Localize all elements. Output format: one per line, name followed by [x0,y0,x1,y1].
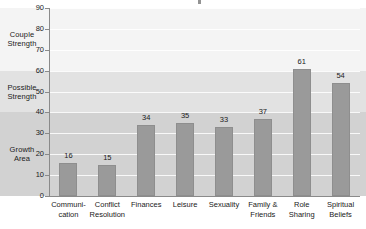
y-axis-tick-mark [45,50,49,51]
y-axis-tick-label: 30 [22,129,44,137]
category-label-line2: cation [46,210,90,220]
y-axis-tick-label: 60 [22,67,44,75]
gridline [49,133,360,134]
gridline [49,29,360,30]
y-axis-tick-label: 70 [22,46,44,54]
y-axis-tick-mark [45,92,49,93]
x-axis-category-label: RoleSharing [280,200,324,219]
bar-value-label: 34 [131,114,161,122]
bar [254,119,272,196]
y-axis-tick-label: 0 [22,192,44,200]
y-axis-tick-label: 20 [22,150,44,158]
gridline [49,50,360,51]
bar [332,83,350,196]
x-axis-category-label: Sexuality [202,200,246,210]
y-axis-tick-mark [45,71,49,72]
y-axis-tick-label: 90 [22,4,44,12]
bar [98,165,116,196]
bar-value-label: 54 [326,72,356,80]
bar [176,123,194,196]
category-label-line1: Leisure [163,200,207,210]
y-axis-tick-mark [45,154,49,155]
bar-value-label: 15 [92,154,122,162]
category-label-line1: Spiritual [319,200,363,210]
y-axis-tick-label: 10 [22,171,44,179]
bar [137,125,155,196]
y-axis-line [49,8,50,197]
bar-value-label: 33 [209,116,239,124]
cropped-title-remnant [198,0,201,4]
category-label-line1: Finances [124,200,168,210]
gridline [49,71,360,72]
y-axis-tick-label: 50 [22,88,44,96]
bar [59,163,77,196]
bar-chart: Couple Strength Possible Strength Growth… [0,0,366,229]
bar-value-label: 16 [53,152,83,160]
category-label-line1: Communi- [46,200,90,210]
y-axis-tick-mark [45,8,49,9]
category-label-line1: Role [280,200,324,210]
gridline [49,112,360,113]
x-axis-category-label: Leisure [163,200,207,210]
y-axis-tick-mark [45,196,49,197]
bar [215,127,233,196]
category-label-line2: Resolution [85,210,129,220]
bar [293,69,311,196]
gridline [49,8,360,9]
y-axis-tick-mark [45,175,49,176]
category-label-line1: Sexuality [202,200,246,210]
category-label-line1: Conflict [85,200,129,210]
gridline [49,92,360,93]
y-axis-tick-mark [45,29,49,30]
x-axis-category-label: Family &Friends [241,200,285,219]
gridline [49,175,360,176]
category-label-line2: Friends [241,210,285,220]
category-label-line2: Sharing [280,210,324,220]
category-label-line1: Family & [241,200,285,210]
y-axis-tick-mark [45,112,49,113]
x-axis-category-label: Finances [124,200,168,210]
bar-value-label: 61 [287,58,317,66]
y-axis-tick-label: 40 [22,108,44,116]
plot-area [49,8,360,196]
category-label-line2: Beliefs [319,210,363,220]
x-axis-category-label: ConflictResolution [85,200,129,219]
y-axis-tick-mark [45,133,49,134]
x-axis-category-label: SpiritualBeliefs [319,200,363,219]
y-axis-tick-label: 80 [22,25,44,33]
bar-value-label: 35 [170,112,200,120]
bar-value-label: 37 [248,108,278,116]
x-axis-category-label: Communi-cation [46,200,90,219]
x-axis-line [49,196,360,197]
